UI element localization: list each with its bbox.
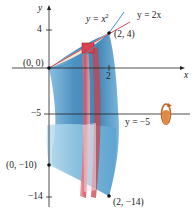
- x-axis-label: x: [184, 71, 188, 81]
- line-label: y = 2x: [137, 11, 161, 21]
- point-0-neg10-label: (0, −10): [6, 161, 37, 171]
- point-2-neg14-label: (2, −14): [113, 198, 144, 208]
- y-axis-arrow: [47, 5, 51, 10]
- point-2-4: [107, 31, 111, 35]
- rotation-axis-label: y = −5: [125, 118, 150, 128]
- point-2-4-label: (2, 4): [114, 30, 135, 40]
- y-tick-4: 4: [37, 25, 42, 35]
- origin-label: (0, 0): [23, 59, 44, 69]
- point-2-neg14: [107, 194, 111, 198]
- x-tick-2: 2: [106, 72, 111, 82]
- point-0-neg10: [47, 163, 51, 167]
- parabola-label: y = x2: [86, 13, 109, 25]
- y-tick-neg5: −5: [31, 109, 41, 119]
- y-tick-neg14: −14: [28, 192, 43, 202]
- rotation-arrow-icon: [162, 103, 173, 125]
- y-axis-label: y: [38, 4, 42, 14]
- point-origin: [47, 66, 51, 70]
- solid-of-revolution-diagram: [0, 0, 195, 213]
